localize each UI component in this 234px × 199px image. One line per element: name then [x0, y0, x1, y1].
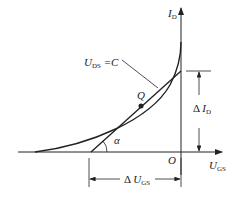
- delta-i-label: Δ ID: [193, 103, 211, 116]
- delta-u-label: Δ UGS: [124, 174, 150, 187]
- x-axis-label: UGS: [209, 160, 226, 173]
- curve-label: UDS =C: [84, 57, 118, 70]
- transfer-characteristic-diagram: ID UGS O UDS =C Q α Δ ID Δ UGS: [0, 0, 234, 199]
- q-point: [139, 104, 144, 109]
- curve-label-leader: [122, 60, 158, 88]
- angle-label: α: [114, 135, 120, 146]
- diagram-graphics: [0, 0, 234, 199]
- origin-label: O: [168, 155, 176, 166]
- angle-arc: [103, 141, 107, 152]
- tangent-line: [91, 71, 181, 152]
- y-axis-label: ID: [168, 8, 177, 21]
- q-label: Q: [137, 90, 145, 101]
